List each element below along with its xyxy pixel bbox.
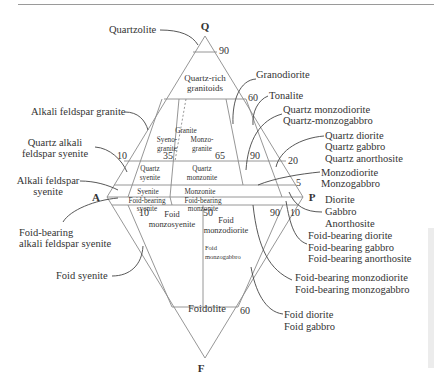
field-monzo-2: granite bbox=[192, 145, 212, 153]
callout-qmd-2: Quartz-monzogabbro bbox=[283, 115, 373, 126]
tick-f90: 90 bbox=[270, 207, 280, 218]
callout-granodiorite: Granodiorite bbox=[256, 69, 310, 80]
callout-fb-alkali-1: Foid-bearing bbox=[19, 227, 74, 238]
f-r90 bbox=[238, 205, 283, 307]
field-monzo-1: Monzo- bbox=[191, 136, 214, 144]
field-fb-monzonite-1: Foid-bearing bbox=[184, 197, 222, 205]
vertex-a: A bbox=[92, 191, 100, 203]
callout-fbd-3: Foid-bearing anorthosite bbox=[308, 253, 412, 264]
field-fb-monzonite-2: monzonite bbox=[188, 205, 218, 213]
callout-qmd-1: Quartz monzodiorite bbox=[283, 104, 371, 115]
leader-qmd bbox=[246, 114, 282, 170]
callout-foid-diorite-2: Foid gabbro bbox=[284, 321, 335, 332]
field-quartz-monzonite-2: monzonite bbox=[187, 174, 217, 182]
field-foid-monzosyenite-1: Foid bbox=[164, 210, 180, 219]
vertex-f: F bbox=[198, 362, 205, 374]
callout-fbmd-2: Foid-bearing monzogabbro bbox=[295, 284, 410, 295]
callout-alkali-feldspar-1: Alkali feldspar bbox=[17, 175, 80, 186]
field-monzonite: Monzonite bbox=[184, 188, 215, 196]
callout-diorite-3: Anorthosite bbox=[325, 218, 375, 229]
leader-qd bbox=[276, 136, 324, 167]
callout-fbd-1: Foid-bearing diorite bbox=[308, 230, 393, 241]
callout-foid-syenite: Foid syenite bbox=[56, 270, 108, 281]
leader-quartzolite bbox=[160, 30, 198, 45]
qapf-diagram: Q A P F 90 60 20 5 10 35 65 90 10 50 90 … bbox=[0, 0, 434, 381]
leader-foid-syenite bbox=[112, 246, 143, 276]
tick-q5: 5 bbox=[296, 177, 301, 188]
callout-md-2: Monzogabbro bbox=[321, 178, 380, 189]
tick-r65: 65 bbox=[215, 150, 225, 161]
field-quartz-monzonite-1: Quartz bbox=[192, 165, 212, 173]
vertex-q: Q bbox=[201, 20, 210, 32]
tick-q20: 20 bbox=[288, 155, 298, 166]
callout-fb-alkali-2: alkali feldspar syenite bbox=[19, 238, 111, 249]
callout-foid-diorite-1: Foid diorite bbox=[284, 309, 334, 320]
callout-qd-1: Quartz diorite bbox=[325, 130, 384, 141]
field-fb-syenite-2: syenite bbox=[137, 205, 157, 213]
tick-r10: 10 bbox=[117, 150, 127, 161]
field-fb-syenite-1: Foid-bearing bbox=[128, 197, 166, 205]
tick-r90: 90 bbox=[250, 150, 260, 161]
field-quartz-syenite-1: Quartz bbox=[140, 165, 160, 173]
vertex-p: P bbox=[309, 191, 316, 203]
callout-quartzolite: Quartzolite bbox=[109, 24, 157, 35]
tick-q90: 90 bbox=[219, 45, 229, 56]
field-foid-monzodiorite-1: Foid bbox=[218, 216, 234, 225]
field-syeno-2: granite bbox=[157, 145, 177, 153]
callout-fbmd-1: Foid-bearing monzodiorite bbox=[295, 272, 408, 283]
r65-upper bbox=[226, 99, 243, 185]
callout-fbd-2: Foid-bearing gabbro bbox=[308, 242, 394, 253]
callout-diorite-1: Diorite bbox=[325, 194, 355, 205]
field-syeno-1: Syeno- bbox=[157, 136, 178, 144]
tick-f60: 60 bbox=[240, 305, 250, 316]
f-tick-a bbox=[170, 197, 172, 205]
callout-diorite-2: Gabbro bbox=[325, 206, 357, 217]
callout-alkali-feldspar-2: syenite bbox=[33, 186, 63, 197]
callout-qd-3: Quartz anorthosite bbox=[325, 153, 403, 164]
field-syenite: Syenite bbox=[137, 188, 159, 196]
field-foid-monzodiorite-2: monzodiorite bbox=[204, 226, 249, 235]
field-foid-monzogabbro-2: monzogabbro bbox=[205, 253, 241, 260]
field-quartz-rich-2: granitoids bbox=[187, 83, 223, 93]
tick-q60: 60 bbox=[248, 92, 258, 103]
diagram-svg: Q A P F 90 60 20 5 10 35 65 90 10 50 90 … bbox=[0, 0, 434, 381]
tick-f10-right: 10 bbox=[290, 207, 300, 218]
callout-quartz-alkali-1: Quartz alkali bbox=[28, 137, 83, 148]
callout-md-1: Monzodiorite bbox=[321, 167, 378, 178]
leader-afg bbox=[125, 112, 148, 130]
callout-qd-2: Quartz gabbro bbox=[325, 141, 385, 152]
field-foid-monzosyenite-2: monzosyenite bbox=[149, 220, 196, 229]
field-quartz-syenite-2: syenite bbox=[140, 174, 160, 182]
field-granite: Granite bbox=[175, 127, 197, 135]
callout-quartz-alkali-2: feldspar syenite bbox=[22, 148, 89, 159]
field-foid-monzogabbro-1: Foid bbox=[205, 244, 218, 251]
callout-tonalite: Tonalite bbox=[269, 90, 304, 101]
field-quartz-rich-1: Quartz-rich bbox=[184, 73, 226, 83]
callout-alkali-feldspar-granite: Alkali feldspar granite bbox=[31, 106, 126, 117]
field-foidolite: Foidolite bbox=[188, 303, 226, 314]
